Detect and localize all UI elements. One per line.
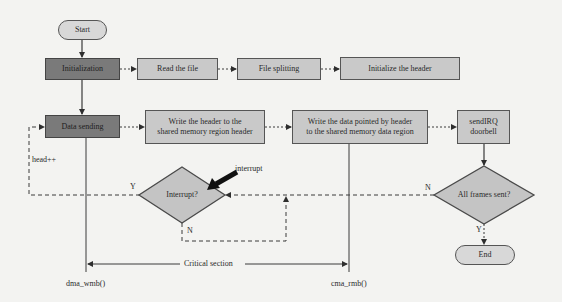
interrupt-arrow-label: interrupt	[235, 164, 263, 173]
head-increment-label: head++	[32, 155, 56, 164]
data-sending-label: Data sending	[62, 122, 104, 132]
interrupt-no-label: N	[187, 226, 193, 235]
write-header-label-2: shared memory region header	[157, 127, 252, 137]
file-splitting-node: File splitting	[237, 58, 321, 80]
write-data-label-2: to the shared memory data region	[306, 127, 413, 137]
write-header-label-1: Write the header to the	[169, 117, 242, 127]
frames-yes-label: Y	[476, 225, 482, 234]
write-header-node: Write the header to the shared memory re…	[145, 110, 265, 144]
cma-rmb-label: cma_rmb()	[331, 279, 367, 288]
send-irq-node: sendIRQ doorbell	[457, 110, 510, 144]
interrupt-decision-label-wrap: Interrupt?	[150, 188, 214, 202]
dma-wmb-label: dma_wmb()	[66, 279, 105, 288]
write-data-node: Write the data pointed by header to the …	[292, 110, 428, 144]
interrupt-yes-label: Y	[130, 182, 136, 191]
frames-no-label: N	[425, 183, 431, 192]
write-data-label-1: Write the data pointed by header	[308, 117, 412, 127]
initialization-label: Initialization	[62, 64, 103, 74]
initialization-node: Initialization	[45, 58, 120, 80]
start-node: Start	[58, 20, 107, 40]
data-sending-node: Data sending	[45, 115, 120, 138]
read-file-node: Read the file	[137, 58, 218, 80]
interrupt-decision-label: Interrupt?	[166, 190, 198, 200]
end-label: End	[479, 250, 492, 260]
send-irq-label-2: doorbell	[470, 127, 497, 137]
end-node: End	[455, 245, 515, 265]
flowchart: Start Initialization Read the file File …	[0, 0, 562, 302]
read-file-label: Read the file	[157, 64, 198, 74]
init-header-label: Initialize the header	[368, 64, 432, 74]
start-label: Start	[75, 25, 90, 35]
all-frames-label: All frames sent?	[458, 190, 510, 200]
file-splitting-label: File splitting	[259, 64, 300, 74]
all-frames-label-wrap: All frames sent?	[444, 188, 524, 202]
critical-section-label: Critical section	[184, 259, 233, 268]
init-header-node: Initialize the header	[340, 57, 460, 80]
send-irq-label-1: sendIRQ	[469, 117, 497, 127]
